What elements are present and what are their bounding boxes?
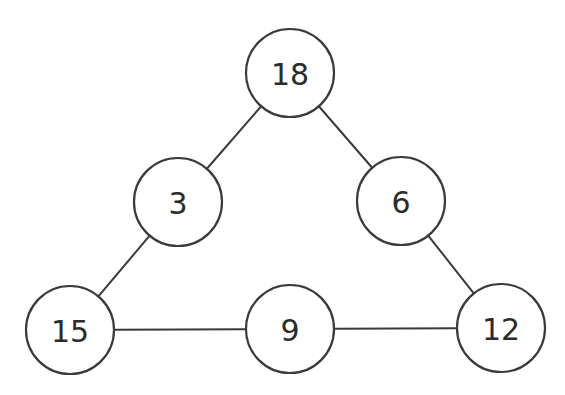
edge-top-left-mid bbox=[207, 106, 261, 169]
node-label: 18 bbox=[271, 57, 309, 92]
node-label: 6 bbox=[391, 185, 410, 220]
node-label: 3 bbox=[168, 186, 187, 221]
nodes-group: 18 3 6 15 9 12 bbox=[26, 29, 545, 374]
node-bottom-right: 12 bbox=[457, 284, 545, 372]
number-triangle-diagram: 18 3 6 15 9 12 bbox=[0, 0, 565, 395]
edge-left-mid-bottom-left bbox=[98, 236, 149, 297]
node-label: 15 bbox=[51, 314, 89, 349]
node-label: 9 bbox=[280, 313, 299, 348]
node-left-mid: 3 bbox=[134, 158, 222, 246]
node-bottom-left: 15 bbox=[26, 286, 114, 374]
node-bottom-mid: 9 bbox=[246, 285, 334, 373]
edge-top-right-mid bbox=[319, 106, 372, 168]
edge-bottom-mid-bottom-right bbox=[334, 328, 457, 329]
edge-bottom-left-bottom-mid bbox=[114, 329, 246, 330]
node-label: 12 bbox=[482, 312, 520, 347]
edge-right-mid-bottom-right bbox=[428, 236, 474, 294]
node-right-mid: 6 bbox=[357, 157, 445, 245]
node-top: 18 bbox=[246, 29, 334, 117]
